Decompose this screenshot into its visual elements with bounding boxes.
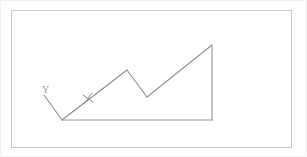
y-axis-label: Y xyxy=(42,85,49,95)
segment-left-leg xyxy=(44,95,62,120)
segment-ascent-1 xyxy=(62,70,127,120)
line-drawing xyxy=(0,0,307,157)
segment-ascent-2 xyxy=(147,45,212,97)
segment-descent-1 xyxy=(127,70,147,97)
screenshot-root: Y xyxy=(0,0,307,157)
